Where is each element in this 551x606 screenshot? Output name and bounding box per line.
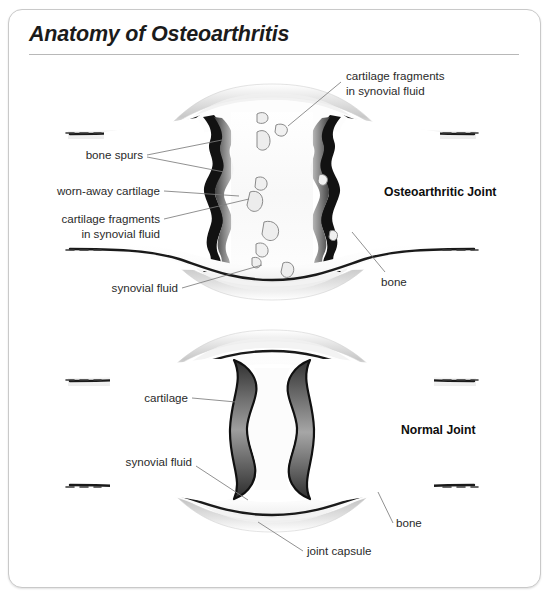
label-frag-left-line1: cartilage fragments: [61, 212, 160, 225]
label-joint-capsule: joint capsule: [306, 544, 371, 557]
label-synovial-fluid-normal: synovial fluid: [126, 455, 192, 468]
label-synovial-fluid-oa: synovial fluid: [112, 281, 178, 294]
label-cartilage-normal: cartilage: [144, 391, 188, 404]
label-bone-spurs: bone spurs: [86, 148, 144, 161]
heading-osteoarthritic-joint: Osteoarthritic Joint: [384, 185, 496, 199]
normal-joint-illustration: cartilage synovial fluid bone joint caps…: [66, 330, 478, 557]
label-frag-left-line2: in synovial fluid: [81, 227, 160, 240]
heading-normal-joint: Normal Joint: [401, 423, 476, 437]
label-frag-top-line2: in synovial fluid: [346, 84, 425, 97]
anatomy-diagram: cartilage fragments in synovial fluid bo…: [0, 0, 551, 606]
label-worn-cartilage: worn-away cartilage: [56, 184, 160, 197]
label-bone-normal: bone: [396, 516, 422, 529]
oa-joint-space: [231, 112, 313, 276]
osteoarthritic-joint-illustration: cartilage fragments in synovial fluid bo…: [56, 69, 497, 300]
label-frag-top-line1: cartilage fragments: [346, 69, 445, 82]
leader-bone-normal: [378, 492, 393, 523]
label-bone-oa: bone: [381, 275, 407, 288]
